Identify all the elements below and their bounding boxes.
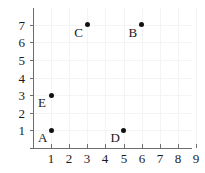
data-point-label-e: E	[38, 96, 46, 109]
data-point-label-a: A	[38, 131, 47, 144]
y-tick-mark	[30, 113, 34, 114]
x-tick-mark	[69, 144, 70, 148]
y-tick-mark	[30, 130, 34, 131]
data-point-e	[49, 93, 54, 98]
data-point-b	[139, 22, 144, 27]
y-tick-label: 4	[13, 72, 25, 85]
x-tick-label: 9	[189, 152, 203, 165]
gridline-horizontal	[33, 60, 192, 61]
y-tick-label: 6	[13, 36, 25, 49]
x-tick-label: 5	[117, 152, 131, 165]
y-tick-mark	[30, 42, 34, 43]
y-tick-mark	[30, 25, 34, 26]
x-tick-label: 3	[80, 152, 94, 165]
gridline-horizontal	[33, 42, 192, 43]
x-axis-line	[30, 148, 192, 149]
data-point-a	[49, 128, 54, 133]
x-tick-mark	[196, 144, 197, 148]
gridline-horizontal	[33, 95, 192, 96]
gridline-horizontal	[33, 78, 192, 79]
y-tick-mark	[30, 95, 34, 96]
data-point-label-d: D	[111, 131, 120, 144]
y-tick-label: 3	[13, 89, 25, 102]
y-tick-label: 5	[13, 54, 25, 67]
y-tick-label: 2	[13, 107, 25, 120]
x-tick-mark	[87, 144, 88, 148]
y-tick-mark	[30, 60, 34, 61]
x-tick-label: 1	[44, 152, 58, 165]
gridline-horizontal	[33, 113, 192, 114]
x-tick-mark	[160, 144, 161, 148]
data-point-d	[121, 128, 126, 133]
x-tick-label: 8	[171, 152, 185, 165]
gridline-horizontal	[33, 25, 192, 26]
gridline-vertical	[196, 8, 197, 148]
x-tick-label: 4	[98, 152, 112, 165]
x-tick-mark	[124, 144, 125, 148]
y-tick-label: 1	[13, 124, 25, 137]
x-tick-mark	[105, 144, 106, 148]
y-tick-mark	[30, 78, 34, 79]
scatter-plot: 123456789 1234567 ABCDE	[0, 0, 205, 173]
data-point-label-b: B	[129, 26, 138, 39]
x-tick-label: 6	[135, 152, 149, 165]
x-tick-label: 2	[62, 152, 76, 165]
x-tick-mark	[178, 144, 179, 148]
x-tick-label: 7	[153, 152, 167, 165]
x-tick-mark	[51, 144, 52, 148]
data-point-label-c: C	[74, 26, 83, 39]
x-tick-mark	[142, 144, 143, 148]
y-tick-label: 7	[13, 19, 25, 32]
data-point-c	[85, 22, 90, 27]
